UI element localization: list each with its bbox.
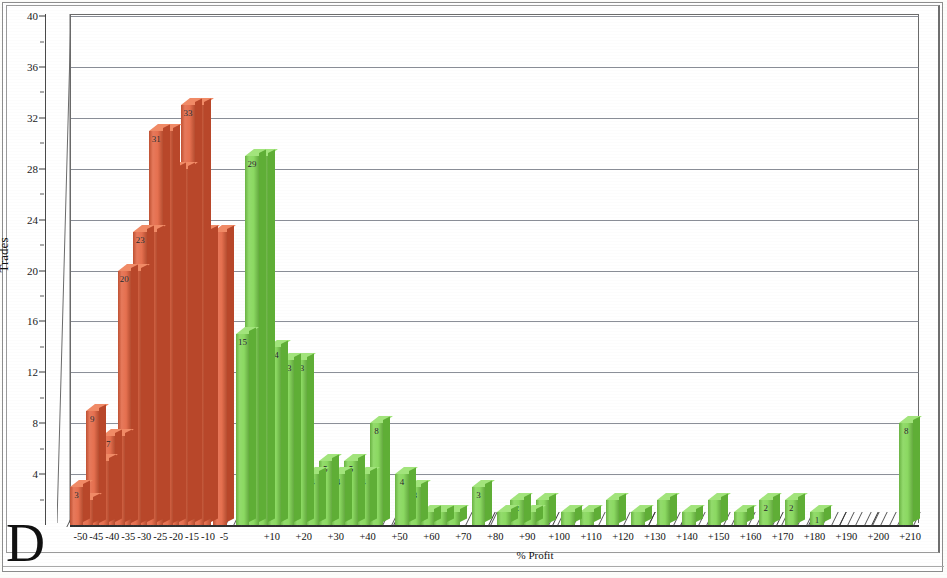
bar-value-label: 31 bbox=[152, 134, 161, 144]
bar-side bbox=[307, 353, 314, 522]
x-axis-tick-label: +120 bbox=[612, 531, 634, 542]
bar bbox=[606, 500, 620, 526]
bar-side bbox=[421, 480, 428, 522]
y-axis-tick-label: 8 bbox=[33, 417, 39, 429]
bar bbox=[580, 512, 594, 525]
x-axis-title: % Profit bbox=[517, 549, 554, 561]
bar-value-label: 29 bbox=[247, 159, 256, 169]
bar-face bbox=[631, 512, 645, 525]
bar-side bbox=[345, 468, 352, 522]
x-axis-tick-label: +10 bbox=[264, 531, 280, 542]
bar-side bbox=[281, 340, 288, 522]
bar-side bbox=[188, 162, 195, 522]
bar-side bbox=[358, 455, 365, 522]
bar-side bbox=[157, 226, 164, 522]
y-axis-tick bbox=[39, 66, 46, 67]
bar-value-label: 8 bbox=[904, 426, 909, 436]
bar-value-label: 9 bbox=[90, 414, 95, 424]
y-axis-tick bbox=[39, 16, 46, 17]
bar-value-label: 33 bbox=[184, 108, 193, 118]
x-axis-tick-label: +60 bbox=[423, 531, 439, 542]
y-axis-tick-label: 20 bbox=[27, 265, 38, 277]
gridline bbox=[71, 67, 919, 68]
bar-side bbox=[249, 328, 256, 522]
bar bbox=[682, 512, 696, 525]
bar-face bbox=[682, 512, 696, 525]
bar bbox=[708, 500, 722, 526]
bar-side bbox=[99, 404, 106, 522]
y-axis-minor-tick bbox=[40, 448, 44, 449]
bar-value-label: 2 bbox=[764, 503, 769, 513]
y-axis-minor-tick bbox=[40, 245, 44, 246]
bar-side bbox=[332, 455, 339, 522]
x-axis-tick-label: +140 bbox=[676, 531, 698, 542]
y-axis-tick-label: 36 bbox=[27, 61, 38, 73]
bar-side bbox=[204, 99, 211, 522]
bar-face bbox=[497, 512, 511, 525]
bar: 15 bbox=[236, 334, 250, 525]
scanned-page: Trades 481216202428323640 39572023312833… bbox=[0, 0, 947, 578]
x-axis-tick-label: -15 bbox=[185, 531, 199, 542]
bar: 2 bbox=[785, 500, 799, 526]
y-axis-minor-tick bbox=[40, 41, 44, 42]
y-axis-tick bbox=[39, 168, 46, 169]
bar-side bbox=[670, 493, 677, 522]
bar-side bbox=[524, 493, 531, 522]
plot-area: 3957202331283323152914131345454843322218 bbox=[57, 14, 919, 525]
bar-side bbox=[83, 480, 90, 522]
x-axis-tick-label: +50 bbox=[391, 531, 407, 542]
y-axis-minor-tick bbox=[40, 194, 44, 195]
x-axis-tick-label: +40 bbox=[359, 531, 375, 542]
x-axis-tick-label: -10 bbox=[201, 531, 215, 542]
x-axis-tick-label: +80 bbox=[487, 531, 503, 542]
bar-side bbox=[115, 429, 122, 522]
x-axis-tick-label: +100 bbox=[548, 531, 570, 542]
bar-side bbox=[319, 468, 326, 522]
y-axis: 481216202428323640 bbox=[40, 14, 58, 525]
bar bbox=[657, 500, 671, 526]
bar-side bbox=[485, 480, 492, 522]
bar-face bbox=[561, 512, 575, 525]
y-axis-tick bbox=[39, 219, 46, 220]
bar-value-label: 2 bbox=[789, 503, 794, 513]
x-axis-tick-label: -45 bbox=[89, 531, 103, 542]
bar-value-label: 4 bbox=[400, 477, 405, 487]
bar: 8 bbox=[899, 423, 913, 525]
x-axis-tick-label: -35 bbox=[121, 531, 135, 542]
bar-side bbox=[268, 150, 275, 522]
gridline bbox=[71, 16, 919, 17]
x-axis-tick-label: +160 bbox=[740, 531, 762, 542]
x-axis-tick-label: -5 bbox=[220, 531, 229, 542]
bar-side bbox=[131, 264, 138, 522]
bar-side bbox=[259, 150, 266, 522]
bar-value-label: 15 bbox=[238, 337, 247, 347]
bar: 3 bbox=[70, 487, 84, 525]
y-axis-tick-label: 12 bbox=[27, 366, 38, 378]
y-axis-tick-label: 28 bbox=[27, 163, 38, 175]
bar-face bbox=[580, 512, 594, 525]
x-axis-tick-label: -50 bbox=[73, 531, 87, 542]
x-axis-tick-label: +90 bbox=[519, 531, 535, 542]
bar: 1 bbox=[810, 512, 824, 525]
x-axis-tick-label: +180 bbox=[804, 531, 826, 542]
bar-side bbox=[141, 264, 148, 522]
y-axis-minor-tick bbox=[40, 92, 44, 93]
bar-face bbox=[708, 500, 722, 526]
x-axis-tick-label: +130 bbox=[644, 531, 666, 542]
y-axis-tick bbox=[39, 474, 46, 475]
bar-side bbox=[125, 429, 132, 522]
x-axis-tick-label: +20 bbox=[296, 531, 312, 542]
x-axis-tick-label: +150 bbox=[708, 531, 730, 542]
bar-face bbox=[899, 423, 913, 525]
x-axis-tick-label: +170 bbox=[772, 531, 794, 542]
x-axis-tick-label: +70 bbox=[455, 531, 471, 542]
bar bbox=[497, 512, 511, 525]
bar-side bbox=[147, 226, 154, 522]
y-axis-tick-label: 40 bbox=[27, 10, 38, 22]
bar-face bbox=[734, 512, 748, 525]
y-axis-minor-tick bbox=[40, 143, 44, 144]
bar bbox=[561, 512, 575, 525]
y-axis-tick bbox=[39, 270, 46, 271]
y-axis-minor-tick bbox=[40, 346, 44, 347]
bar-side bbox=[211, 226, 218, 522]
